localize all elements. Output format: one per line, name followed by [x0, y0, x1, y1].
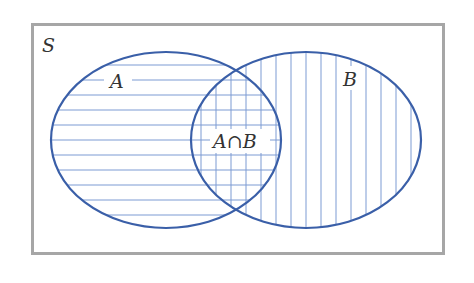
venn-diagram: S A B A∩B	[0, 0, 474, 283]
set-a-label: A	[108, 70, 124, 92]
universe-label: S	[42, 34, 55, 56]
intersection-label: A∩B	[211, 130, 257, 152]
set-b-label: B	[342, 68, 357, 90]
